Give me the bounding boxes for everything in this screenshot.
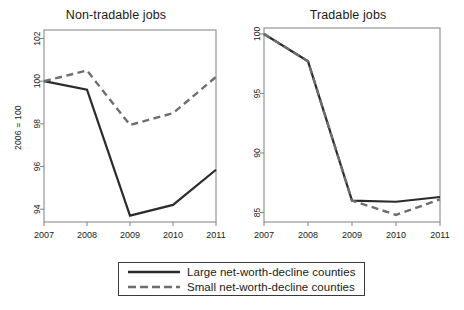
x-tick-label: 2007 — [254, 230, 274, 240]
x-tick-label: 2008 — [77, 230, 97, 240]
y-tick-label: 95 — [252, 88, 262, 98]
y-tick-label: 96 — [32, 162, 42, 172]
legend-label-large: Large net-worth-decline counties — [187, 266, 355, 278]
legend-swatch-dashed-icon — [127, 280, 181, 294]
y-tick-label: 100 — [252, 27, 262, 41]
figure-canvas: Non-tradable jobs 2006 = 100 94969810010… — [0, 0, 464, 310]
chart-panel-non-tradable: Non-tradable jobs 2006 = 100 94969810010… — [0, 0, 232, 250]
y-tick-label: 94 — [32, 204, 42, 214]
x-tick-label: 2011 — [430, 230, 449, 240]
legend-item-large: Large net-worth-decline counties — [119, 264, 364, 280]
series-line-large — [44, 81, 216, 215]
x-tick-label: 2010 — [386, 230, 406, 240]
y-tick-label: 102 — [32, 31, 42, 45]
y-tick-label: 90 — [252, 148, 262, 158]
y-tick-label: 98 — [32, 119, 42, 129]
x-tick-label: 2011 — [206, 230, 225, 240]
legend-label-small: Small net-worth-decline counties — [187, 281, 355, 293]
x-tick-label: 2009 — [342, 230, 362, 240]
x-tick-label: 2008 — [298, 230, 318, 240]
x-tick-label: 2010 — [163, 230, 183, 240]
plot-area-tradable: 85909510020072008200920102011 — [232, 0, 464, 250]
y-tick-label: 100 — [32, 74, 42, 88]
series-line-small — [264, 34, 440, 215]
chart-panel-tradable: Tradable jobs 2006 = 100 859095100200720… — [232, 0, 464, 250]
x-tick-label: 2007 — [34, 230, 54, 240]
chart-legend: Large net-worth-decline counties Small n… — [118, 262, 365, 296]
y-tick-label: 85 — [252, 207, 262, 217]
plot-area-non-tradable: 94969810010220072008200920102011 — [0, 0, 232, 250]
series-line-small — [44, 71, 216, 125]
legend-item-small: Small net-worth-decline counties — [119, 279, 364, 295]
series-line-large — [264, 34, 440, 202]
legend-swatch-solid-icon — [127, 265, 181, 279]
x-tick-label: 2009 — [120, 230, 140, 240]
